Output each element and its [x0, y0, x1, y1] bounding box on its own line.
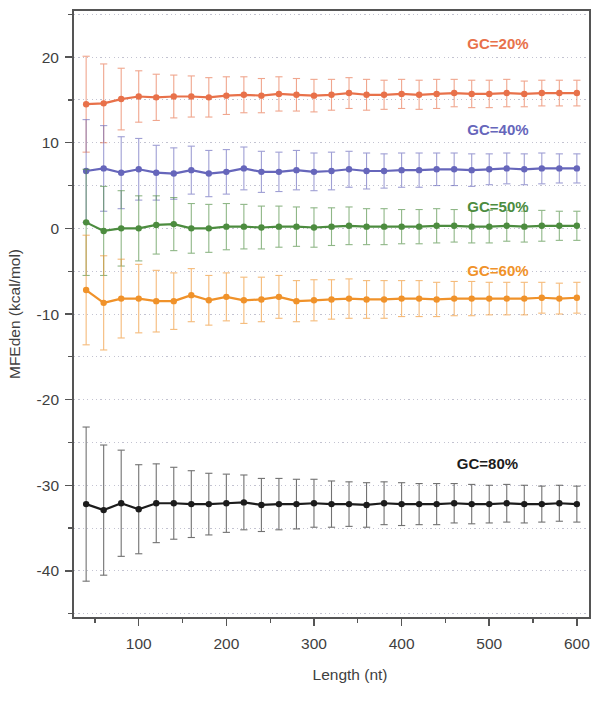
data-point	[276, 91, 282, 97]
data-point	[486, 223, 492, 229]
data-point	[328, 223, 334, 229]
data-point	[241, 297, 247, 303]
data-point	[556, 165, 562, 171]
data-point	[433, 91, 439, 97]
data-point	[574, 90, 580, 96]
data-point	[346, 501, 352, 507]
data-point	[416, 501, 422, 507]
data-point	[328, 501, 334, 507]
data-point	[223, 223, 229, 229]
series-gc60	[83, 235, 581, 350]
data-point	[451, 90, 457, 96]
data-point	[276, 501, 282, 507]
data-point	[276, 294, 282, 300]
data-point	[556, 90, 562, 96]
data-point	[346, 223, 352, 229]
data-point	[486, 295, 492, 301]
data-point	[433, 166, 439, 172]
data-point	[521, 91, 527, 97]
x-tick-label: 500	[476, 635, 502, 652]
data-point	[188, 167, 194, 173]
data-point	[504, 295, 510, 301]
data-point	[574, 223, 580, 229]
data-point	[293, 223, 299, 229]
data-point	[521, 223, 527, 229]
data-point	[136, 295, 142, 301]
data-point	[469, 501, 475, 507]
data-point	[363, 502, 369, 508]
data-point	[363, 223, 369, 229]
data-point	[398, 223, 404, 229]
data-point	[293, 501, 299, 507]
data-point	[328, 92, 334, 98]
data-point	[381, 296, 387, 302]
data-point	[118, 96, 124, 102]
data-point	[486, 91, 492, 97]
data-point	[346, 166, 352, 172]
data-point	[171, 93, 177, 99]
data-point	[258, 296, 264, 302]
data-point	[539, 501, 545, 507]
x-tick-label: 600	[564, 635, 590, 652]
data-point	[363, 296, 369, 302]
data-point	[363, 168, 369, 174]
data-point	[171, 170, 177, 176]
data-point	[118, 295, 124, 301]
y-tick-label: -10	[37, 306, 60, 323]
data-point	[100, 100, 106, 106]
data-point	[153, 94, 159, 100]
data-point	[521, 166, 527, 172]
data-point	[258, 502, 264, 508]
data-point	[451, 500, 457, 506]
data-point	[188, 292, 194, 298]
data-point	[293, 298, 299, 304]
data-point	[223, 169, 229, 175]
data-point	[206, 225, 212, 231]
data-point	[398, 501, 404, 507]
data-point	[539, 223, 545, 229]
data-point	[574, 295, 580, 301]
data-point	[539, 295, 545, 301]
data-point	[188, 501, 194, 507]
data-point	[153, 500, 159, 506]
data-point	[83, 101, 89, 107]
data-point	[100, 507, 106, 513]
data-point	[416, 167, 422, 173]
data-point	[504, 165, 510, 171]
data-point	[258, 92, 264, 98]
data-point	[433, 501, 439, 507]
data-point	[469, 91, 475, 97]
data-point	[539, 165, 545, 171]
data-point	[486, 501, 492, 507]
data-point	[188, 93, 194, 99]
data-point	[556, 223, 562, 229]
data-point	[206, 170, 212, 176]
data-point	[276, 223, 282, 229]
data-point	[83, 501, 89, 507]
data-point	[258, 169, 264, 175]
data-point	[206, 297, 212, 303]
data-point	[398, 91, 404, 97]
data-point	[398, 295, 404, 301]
data-point	[363, 92, 369, 98]
y-tick-label: -40	[37, 562, 60, 579]
data-point	[100, 165, 106, 171]
y-tick-label: 10	[42, 134, 60, 151]
data-point	[346, 90, 352, 96]
data-point	[276, 169, 282, 175]
x-tick-label: 200	[213, 635, 239, 652]
data-point	[486, 166, 492, 172]
data-point	[188, 225, 194, 231]
data-point	[556, 295, 562, 301]
series-label-gc80: GC=80%	[457, 455, 518, 472]
x-tick-label: 300	[301, 635, 327, 652]
y-tick-label: 0	[50, 220, 59, 237]
data-point	[521, 501, 527, 507]
data-point	[136, 225, 142, 231]
x-axis-title: Length (nt)	[313, 666, 388, 683]
data-point	[328, 296, 334, 302]
series-label-gc40: GC=40%	[467, 121, 528, 138]
data-point	[398, 167, 404, 173]
data-point	[451, 295, 457, 301]
y-tick-label: -30	[37, 477, 60, 494]
